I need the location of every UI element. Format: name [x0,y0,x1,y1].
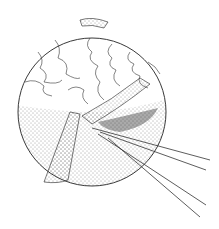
torn-edge-top [80,18,108,28]
sphere-forceps-drawing [0,0,219,229]
illustration [0,0,219,229]
vessel-lines [25,38,160,104]
